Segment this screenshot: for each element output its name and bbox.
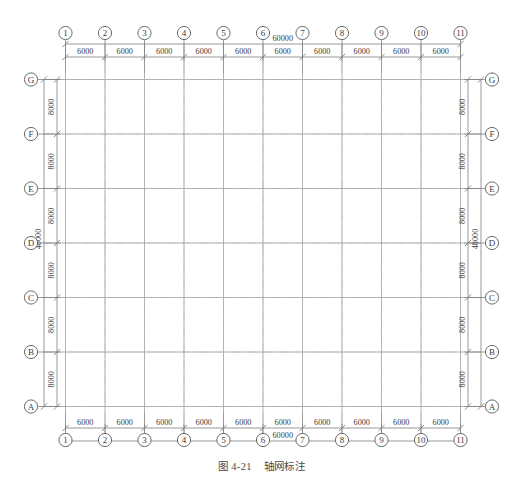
axis-bubble-bottom-10-label: 10 <box>417 435 427 445</box>
dim-text-left-chain-5: 8000 <box>47 317 56 333</box>
axis-bubble-right-F-label: F <box>489 129 494 139</box>
grid-plan-drawing: 6000600060006000600060006000600060006000… <box>0 0 523 494</box>
axis-bubble-bottom-4-label: 4 <box>182 435 187 445</box>
dim-text-right-chain-3: 8000 <box>458 208 467 224</box>
axis-bubble-top-5-label: 5 <box>221 28 226 38</box>
axis-bubble-top-10-label: 10 <box>417 28 427 38</box>
dim-text-top-chain-5: 6000 <box>235 47 251 56</box>
axis-bubble-top-9-label: 9 <box>379 28 384 38</box>
dim-text-left-chain-2: 8000 <box>47 153 56 169</box>
axis-bubble-left-E-label: E <box>28 184 34 194</box>
dim-text-bottom-chain-4: 6000 <box>196 418 212 427</box>
dim-text-right-chain-1: 8000 <box>458 99 467 115</box>
axis-bubble-bottom-7-label: 7 <box>300 435 305 445</box>
axis-bubble-bottom-8-label: 8 <box>340 435 345 445</box>
figure-canvas: 6000600060006000600060006000600060006000… <box>0 0 523 494</box>
dim-text-left-chain-4: 8000 <box>47 262 56 278</box>
dim-text-right-chain-2: 8000 <box>458 153 467 169</box>
axis-bubble-top-8-label: 8 <box>340 28 345 38</box>
dim-text-top-chain-3: 6000 <box>156 47 172 56</box>
figure-caption: 图 4-21 轴网标注 <box>0 458 523 473</box>
dim-text-top-chain-4: 6000 <box>196 47 212 56</box>
axis-bubble-right-E-label: E <box>489 184 495 194</box>
axis-bubble-right-B-label: B <box>489 347 495 357</box>
dim-text-top-chain-2: 6000 <box>117 47 133 56</box>
axis-bubble-bottom-11-label: 11 <box>456 435 465 445</box>
axis-bubble-bottom-1-label: 1 <box>63 435 68 445</box>
axis-bubble-bottom-9-label: 9 <box>379 435 384 445</box>
axis-bubble-left-C-label: C <box>28 293 34 303</box>
dim-text-bottom-chain-6: 6000 <box>275 418 291 427</box>
figure-caption-number: 图 4-21 <box>218 458 252 473</box>
axis-bubble-bottom-6-label: 6 <box>261 435 266 445</box>
dim-text-bottom-chain-2: 6000 <box>117 418 133 427</box>
dim-text-top-overall: 60000 <box>273 34 293 43</box>
dim-text-right-chain-4: 8000 <box>458 262 467 278</box>
dim-text-bottom-chain-1: 6000 <box>77 418 93 427</box>
dim-text-top-chain-6: 6000 <box>275 47 291 56</box>
axis-bubble-top-11-label: 11 <box>456 28 465 38</box>
axis-bubble-left-A-label: A <box>28 402 35 412</box>
dim-text-right-chain-5: 8000 <box>458 317 467 333</box>
dim-text-bottom-chain-9: 6000 <box>393 418 409 427</box>
dim-text-bottom-chain-8: 6000 <box>354 418 370 427</box>
dim-text-top-chain-8: 6000 <box>354 47 370 56</box>
axis-bubble-right-A-label: A <box>489 402 496 412</box>
axis-bubble-left-B-label: B <box>28 347 34 357</box>
axis-bubble-top-3-label: 3 <box>142 28 147 38</box>
dim-text-left-chain-3: 8000 <box>47 208 56 224</box>
axis-bubble-left-G-label: G <box>28 75 35 85</box>
dim-text-bottom-chain-5: 6000 <box>235 418 251 427</box>
dim-text-bottom-overall: 60000 <box>273 431 293 440</box>
figure-caption-title: 轴网标注 <box>264 458 305 473</box>
dim-text-top-chain-10: 6000 <box>433 47 449 56</box>
dim-text-left-chain-1: 8000 <box>47 99 56 115</box>
dim-text-bottom-chain-3: 6000 <box>156 418 172 427</box>
dim-text-top-chain-7: 6000 <box>314 47 330 56</box>
axis-bubble-top-4-label: 4 <box>182 28 187 38</box>
dim-text-top-chain-9: 6000 <box>393 47 409 56</box>
axis-bubble-right-G-label: G <box>489 75 496 85</box>
axis-bubble-top-1-label: 1 <box>63 28 68 38</box>
axis-bubble-right-C-label: C <box>489 293 495 303</box>
dim-text-right-overall: 48000 <box>471 229 480 249</box>
dim-text-bottom-chain-7: 6000 <box>314 418 330 427</box>
axis-bubble-top-7-label: 7 <box>300 28 305 38</box>
axis-bubble-bottom-3-label: 3 <box>142 435 147 445</box>
dim-text-right-chain-6: 8000 <box>458 371 467 387</box>
axis-bubble-left-F-label: F <box>28 129 33 139</box>
dim-text-top-chain-1: 6000 <box>77 47 93 56</box>
axis-bubble-bottom-5-label: 5 <box>221 435 226 445</box>
dim-text-bottom-chain-10: 6000 <box>433 418 449 427</box>
dim-text-left-chain-6: 8000 <box>47 371 56 387</box>
axis-bubble-top-2-label: 2 <box>103 28 108 38</box>
axis-bubble-left-D-label: D <box>28 238 35 248</box>
axis-bubble-bottom-2-label: 2 <box>103 435 108 445</box>
axis-bubble-right-D-label: D <box>489 238 496 248</box>
axis-bubble-top-6-label: 6 <box>261 28 266 38</box>
